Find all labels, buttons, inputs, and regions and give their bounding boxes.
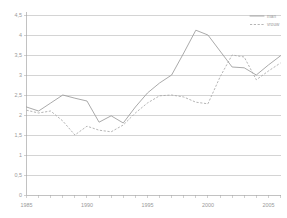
x-axis-tick-label: 1995 — [141, 202, 153, 208]
gridlines-group — [27, 15, 281, 175]
line-chart: 00,511,522,533,544,5 1985199019952000200… — [0, 0, 287, 218]
legend-label-vrouw: vrouw — [267, 22, 280, 27]
series-line-man — [27, 30, 281, 123]
y-axis-labels: 00,511,522,533,544,5 — [15, 12, 23, 198]
y-axis-tick-label: 3,5 — [15, 52, 23, 58]
x-axis-tick-label: 1985 — [21, 202, 33, 208]
y-axis-tick-label: 0 — [19, 192, 22, 198]
legend: manvrouw — [250, 14, 280, 28]
x-axis-tick-label: 2005 — [262, 202, 274, 208]
chart-canvas: 00,511,522,533,544,5 1985199019952000200… — [0, 0, 287, 218]
y-axis-tick-label: 1 — [19, 152, 22, 158]
y-axis-tick-label: 4 — [19, 32, 22, 38]
y-axis-tick-label: 2,5 — [15, 92, 23, 98]
y-axis-tick-label: 4,5 — [15, 12, 23, 18]
tickmarks-group — [24, 15, 281, 198]
x-axis-tick-label: 1990 — [81, 202, 93, 208]
x-axis-labels: 19851990199520002005 — [21, 202, 275, 208]
y-axis-tick-label: 0,5 — [15, 172, 23, 178]
series-group — [27, 30, 281, 135]
x-axis-tick-label: 2000 — [202, 202, 214, 208]
legend-label-man: man — [267, 14, 276, 19]
y-axis-tick-label: 2 — [19, 112, 22, 118]
y-axis-tick-label: 3 — [19, 72, 22, 78]
axis-group — [27, 12, 281, 195]
y-axis-tick-label: 1,5 — [15, 132, 23, 138]
